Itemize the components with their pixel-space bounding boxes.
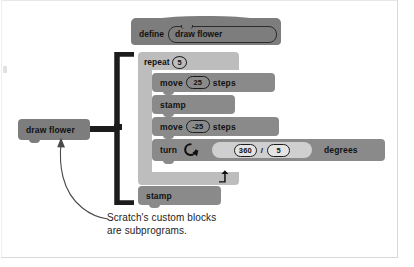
move-back-block[interactable]: move -25 steps — [152, 117, 279, 136]
stamp-block-after-loop[interactable]: stamp — [138, 186, 221, 205]
move-forward-block[interactable]: move 25 steps — [152, 73, 275, 92]
page-edge-artifact — [3, 66, 7, 73]
turn-label: turn — [160, 145, 177, 155]
divisor-input[interactable]: 5 — [267, 144, 290, 157]
move-back-label: move — [160, 122, 183, 132]
draw-flower-call-label: draw flower — [26, 125, 75, 135]
turn-degrees-suffix: degrees — [324, 145, 358, 155]
repeat-block-arm — [138, 70, 152, 172]
division-operator-symbol: / — [261, 146, 263, 155]
turn-block[interactable]: turn 360 / 5 degrees — [152, 139, 385, 161]
block-notch — [149, 204, 160, 208]
block-notch — [163, 160, 174, 164]
caller-to-bracket-connector — [88, 126, 118, 132]
repeat-count-input[interactable]: 5 — [172, 56, 187, 69]
loop-arrow-icon — [218, 170, 231, 183]
callout-arrow — [40, 133, 130, 223]
block-notch — [29, 139, 40, 143]
move-back-suffix: steps — [213, 122, 236, 132]
caption-line-2: are subprograms. — [107, 224, 297, 237]
move-forward-steps-input[interactable]: 25 — [186, 76, 210, 89]
draw-flower-call-block[interactable]: draw flower — [18, 119, 90, 140]
procedure-prototype-notch — [181, 25, 193, 29]
figure-caption: Scratch's custom blocks are subprograms. — [107, 211, 297, 237]
division-operator-block[interactable]: 360 / 5 — [212, 142, 312, 158]
dividend-input[interactable]: 360 — [234, 144, 257, 157]
move-back-steps-input[interactable]: -25 — [186, 120, 210, 133]
stamp-label: stamp — [160, 100, 186, 110]
repeat-keyword-label: repeat — [144, 57, 170, 67]
procedure-name-label: draw flower — [175, 29, 222, 39]
figure-canvas: define draw flower repeat 5 move 25 step… — [0, 0, 414, 267]
caption-line-1: Scratch's custom blocks — [107, 211, 297, 224]
stamp-block-inner[interactable]: stamp — [152, 95, 235, 114]
turn-clockwise-icon — [183, 143, 199, 158]
move-forward-label: move — [160, 78, 183, 88]
define-keyword-label: define — [139, 29, 164, 39]
move-forward-suffix: steps — [213, 78, 236, 88]
stamp-after-loop-label: stamp — [146, 191, 172, 201]
